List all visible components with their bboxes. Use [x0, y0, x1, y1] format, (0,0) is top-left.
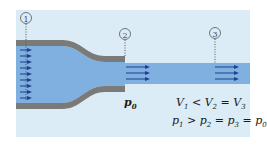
- ambient-pressure-label: p0: [124, 96, 137, 111]
- svg-text:2: 2: [122, 31, 127, 40]
- velocity-equation: V1 < V2 = V3: [176, 96, 246, 111]
- pressure-equation: p1 > p2 = p3 = p0: [172, 114, 267, 129]
- velocity-arrows-2: [126, 65, 150, 81]
- velocity-arrows-1: [20, 48, 32, 100]
- velocity-arrows-3: [215, 65, 239, 81]
- fluid-pipe: [16, 46, 125, 103]
- svg-text:1: 1: [23, 15, 28, 24]
- svg-text:3: 3: [212, 30, 217, 39]
